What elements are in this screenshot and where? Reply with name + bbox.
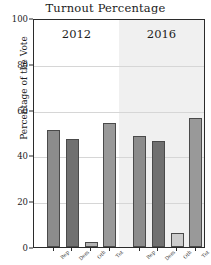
bar bbox=[66, 139, 79, 247]
y-tick-label: 20 bbox=[17, 197, 28, 207]
gridline bbox=[34, 112, 204, 113]
bar bbox=[133, 136, 146, 247]
x-tick-label: Tot bbox=[114, 249, 124, 259]
x-tick-label: Dem bbox=[78, 249, 91, 262]
panel-label-2016: 2016 bbox=[119, 27, 204, 41]
bar bbox=[152, 141, 165, 247]
x-tick-mark bbox=[53, 248, 54, 251]
x-tick-mark bbox=[157, 248, 158, 251]
panel-label-2012: 2012 bbox=[34, 27, 119, 41]
bar bbox=[189, 118, 202, 247]
bar bbox=[85, 242, 98, 247]
x-tick-label: Oth bbox=[96, 249, 107, 260]
y-axis-ticks: 020406080100 bbox=[0, 19, 33, 248]
y-tick-label: 80 bbox=[17, 60, 28, 70]
bar bbox=[171, 233, 184, 247]
x-tick-label: Dem bbox=[164, 249, 177, 262]
x-tick-label: Rep bbox=[59, 249, 70, 260]
x-tick-mark bbox=[195, 248, 196, 251]
x-axis-ticks: RepDemOthTotRepDemOthTot bbox=[33, 248, 205, 265]
y-tick-label: 100 bbox=[12, 14, 28, 24]
x-tick-label: Rep bbox=[145, 249, 156, 260]
y-tick-label: 0 bbox=[23, 243, 28, 253]
gridline bbox=[34, 66, 204, 67]
x-tick-mark bbox=[71, 248, 72, 251]
y-tick-label: 60 bbox=[17, 106, 28, 116]
x-tick-label: Oth bbox=[182, 249, 193, 260]
x-tick-mark bbox=[90, 248, 91, 251]
bar bbox=[47, 130, 60, 247]
x-tick-mark bbox=[176, 248, 177, 251]
x-tick-label: Tot bbox=[200, 249, 210, 259]
x-tick-mark bbox=[139, 248, 140, 251]
chart-title: Turnout Percentage bbox=[0, 1, 211, 15]
chart-figure: Turnout Percentage Percentage of the Vot… bbox=[0, 0, 211, 265]
x-tick-mark bbox=[109, 248, 110, 251]
bar bbox=[103, 123, 116, 247]
plot-area: 2012 2016 bbox=[33, 19, 205, 248]
y-tick-label: 40 bbox=[17, 151, 28, 161]
